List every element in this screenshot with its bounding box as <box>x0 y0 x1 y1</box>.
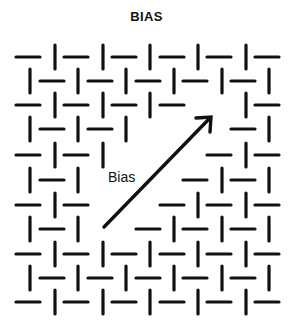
dash-grid <box>16 45 279 314</box>
arrow-label: Bias <box>108 169 135 185</box>
basketweave-pattern <box>0 0 293 325</box>
